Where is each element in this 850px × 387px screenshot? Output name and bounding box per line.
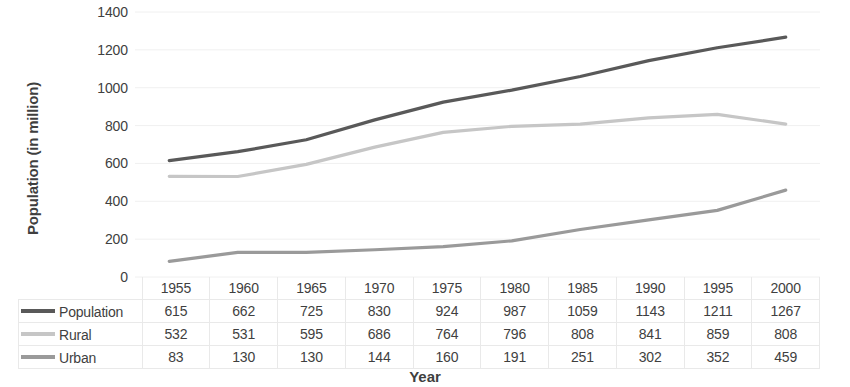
table-cell: 251 — [549, 346, 617, 369]
y-tick-label: 600 — [0, 155, 128, 171]
table-header-row: 1955196019651970197519801985199019952000 — [19, 277, 820, 300]
y-tick-label: 1200 — [0, 42, 128, 58]
table-cell: 796 — [481, 323, 549, 346]
legend-line-swatch-icon — [21, 355, 55, 359]
line-chart: Population (in million) 0200400600800100… — [0, 0, 850, 387]
table-cell: 615 — [142, 300, 210, 323]
y-tick-label: 400 — [0, 193, 128, 209]
table-row: Urban83130130144160191251302352459 — [19, 346, 820, 369]
y-tick-label: 1400 — [0, 4, 128, 20]
table-cell: 1143 — [616, 300, 684, 323]
table-cell: 830 — [345, 300, 413, 323]
table-cell: 808 — [549, 323, 617, 346]
table-cell: 130 — [278, 346, 346, 369]
table-row: Rural532531595686764796808841859808 — [19, 323, 820, 346]
legend-line-swatch-icon — [21, 309, 55, 313]
legend-item-population: Population — [19, 300, 143, 323]
table-cell: 808 — [752, 323, 820, 346]
series-label: Population — [59, 304, 123, 320]
table-cell: 1267 — [752, 300, 820, 323]
table-column-header: 1980 — [481, 277, 549, 300]
table-column-header: 1965 — [278, 277, 346, 300]
table-cell: 144 — [345, 346, 413, 369]
table-cell: 924 — [413, 300, 481, 323]
table-cell: 841 — [616, 323, 684, 346]
series-label: Urban — [59, 350, 96, 366]
table-cell: 686 — [345, 323, 413, 346]
series-label: Rural — [59, 327, 91, 343]
table-cell: 859 — [684, 323, 752, 346]
table-cell: 531 — [210, 323, 278, 346]
table-column-header: 1990 — [616, 277, 684, 300]
table-cell: 595 — [278, 323, 346, 346]
legend-line-swatch-icon — [21, 332, 55, 336]
legend-item-rural: Rural — [19, 323, 143, 346]
gridlines — [135, 12, 820, 277]
table-column-header: 1960 — [210, 277, 278, 300]
y-tick-label: 200 — [0, 231, 128, 247]
table-cell: 459 — [752, 346, 820, 369]
table-column-header: 1995 — [684, 277, 752, 300]
data-table-body: 1955196019651970197519801985199019952000… — [19, 277, 820, 369]
table-column-header: 1970 — [345, 277, 413, 300]
table-corner-cell — [19, 277, 143, 300]
plot-area — [135, 12, 820, 277]
table-cell: 83 — [142, 346, 210, 369]
table-cell: 160 — [413, 346, 481, 369]
table-column-header: 1985 — [549, 277, 617, 300]
table-cell: 191 — [481, 346, 549, 369]
x-axis-title: Year — [0, 368, 850, 385]
table-cell: 532 — [142, 323, 210, 346]
legend-item-urban: Urban — [19, 346, 143, 369]
y-tick-label: 1000 — [0, 80, 128, 96]
table-cell: 764 — [413, 323, 481, 346]
table-cell: 302 — [616, 346, 684, 369]
table-cell: 352 — [684, 346, 752, 369]
y-axis-tick-labels: 0200400600800100012001400 — [0, 0, 128, 290]
table-cell: 987 — [481, 300, 549, 323]
table-cell: 662 — [210, 300, 278, 323]
table-column-header: 1955 — [142, 277, 210, 300]
data-table: 1955196019651970197519801985199019952000… — [18, 277, 820, 369]
table-cell: 130 — [210, 346, 278, 369]
series-lines — [169, 37, 786, 261]
table-cell: 725 — [278, 300, 346, 323]
table-row: Population615662725830924987105911431211… — [19, 300, 820, 323]
table-cell: 1059 — [549, 300, 617, 323]
series-line-population — [169, 37, 786, 160]
table-column-header: 1975 — [413, 277, 481, 300]
plot-svg — [135, 12, 820, 277]
series-line-rural — [169, 114, 786, 176]
table-cell: 1211 — [684, 300, 752, 323]
table-column-header: 2000 — [752, 277, 820, 300]
y-tick-label: 800 — [0, 118, 128, 134]
